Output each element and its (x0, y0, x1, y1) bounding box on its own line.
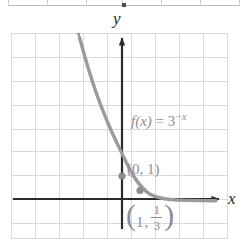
fraction-one-third: 1 3 (151, 203, 162, 233)
point-label-one-third: ( 1 , 1 3 ) (126, 202, 174, 232)
plot-graphics (11, 33, 228, 239)
open-paren: ( (126, 206, 136, 225)
table-marker-dot (122, 3, 126, 7)
function-equation-label: f(x) = 3−x (131, 114, 186, 129)
point-label-y-intercept: (0, 1) (127, 162, 160, 177)
point-comma: , (145, 215, 149, 232)
equals-sign: = (152, 113, 168, 129)
table-column-divider (161, 0, 162, 6)
exponential-graph-figure: y x f(x) = 3−x (0, 1) ( 1 , 1 3 ) (0, 0, 247, 250)
table-column-divider (239, 0, 240, 6)
point-marker-1-one-third (136, 187, 143, 194)
table-column-divider (86, 0, 87, 6)
point-marker-0-1 (118, 172, 125, 179)
y-axis-label: y (113, 10, 121, 27)
point-x-value: 1 (136, 215, 144, 232)
x-axis-label: x (228, 190, 236, 207)
table-column-divider (200, 0, 201, 6)
cropped-table-fragment (0, 0, 247, 9)
function-notation: f(x) (131, 113, 152, 129)
table-column-divider (47, 0, 48, 6)
exponent-value: −x (175, 111, 186, 122)
fraction-denominator: 3 (152, 219, 163, 232)
table-column-divider (8, 0, 9, 6)
fraction-numerator: 1 (152, 203, 163, 216)
close-paren: ) (164, 206, 174, 225)
plot-area (11, 33, 228, 239)
